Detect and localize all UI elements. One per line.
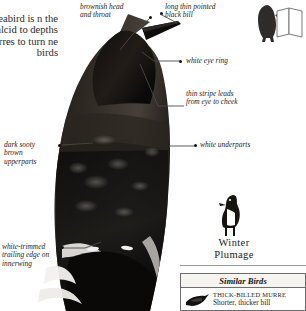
callout-white-eye-ring: white eye ring bbox=[186, 57, 228, 65]
similar-birds-divider bbox=[180, 265, 306, 266]
callout-dot-white-underparts bbox=[194, 144, 197, 147]
similar-birds-title: Similar Birds bbox=[181, 274, 305, 288]
similar-birds-box: Similar Birds Thick-billed Murre Shorter… bbox=[180, 273, 306, 311]
winter-plumage-line2: Plumage bbox=[214, 249, 254, 260]
similar-birds-entry: Thick-billed Murre Shorter, thicker bill bbox=[181, 288, 305, 310]
callout-dot-dark-upperparts bbox=[58, 144, 61, 147]
similar-bird-name: Thick-billed Murre bbox=[213, 291, 286, 298]
callout-black-bill: long thin pointed black bill bbox=[165, 3, 239, 20]
callout-dark-upperparts: dark sooty brown upperparts bbox=[4, 141, 66, 166]
winter-plumage-line1: Winter bbox=[218, 237, 249, 248]
callout-dot-black-bill bbox=[160, 12, 163, 15]
flying-murre-icon bbox=[184, 290, 210, 310]
perched-bird-icon bbox=[256, 3, 278, 43]
open-book-icon bbox=[276, 7, 304, 39]
winter-plumage-caption: Winter Plumage bbox=[196, 238, 272, 261]
similar-bird-description: Shorter, thicker bill bbox=[213, 298, 286, 307]
callout-eye-stripe: thin stripe leads from eye to cheek bbox=[186, 90, 270, 107]
field-guide-page: seabird is n the alcid to depths murres … bbox=[0, 0, 306, 311]
callout-dot-white-trimmed bbox=[61, 246, 64, 249]
intro-paragraph: seabird is n the alcid to depths murres … bbox=[0, 13, 58, 59]
callout-dot-brownish-head bbox=[149, 16, 152, 19]
callout-dot-white-eye-ring bbox=[179, 60, 182, 63]
callout-brownish-head: brownish head and throat bbox=[80, 3, 146, 20]
callout-white-underparts: white underparts bbox=[200, 141, 250, 149]
standing-murre-icon bbox=[216, 192, 254, 238]
